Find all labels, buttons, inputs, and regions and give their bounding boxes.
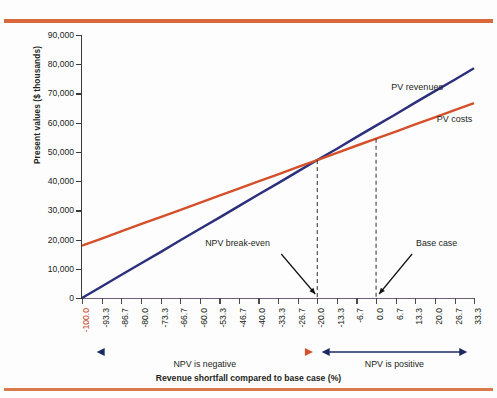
- x-tick-label: -93.3: [101, 308, 111, 328]
- x-tick: [435, 298, 436, 304]
- x-tick-label: -6.7: [355, 308, 365, 323]
- x-tick-label: 6.7: [395, 308, 405, 320]
- x-tick-label: 20.0: [434, 308, 444, 325]
- x-tick: [298, 298, 299, 304]
- x-tick-label: 26.7: [454, 308, 464, 325]
- arrow-npv-break-even: [281, 254, 315, 294]
- x-tick-label: -80.0: [140, 308, 150, 328]
- x-tick: [278, 298, 279, 304]
- x-tick: [337, 298, 338, 304]
- y-tick-label: 40,000: [28, 176, 74, 186]
- figure-page: Present values ($ thousands) 010,00020,0…: [0, 0, 497, 398]
- x-tick: [180, 298, 181, 304]
- x-tick-label: -40.0: [257, 308, 267, 328]
- x-tick-label: -20.0: [316, 308, 326, 328]
- y-tick-label: 80,000: [28, 59, 74, 69]
- y-tick-label: 60,000: [28, 118, 74, 128]
- x-tick-label: 13.3: [414, 308, 424, 325]
- region-label-npv-negative: NPV is negative: [97, 359, 313, 369]
- x-tick: [141, 298, 142, 304]
- x-tick: [102, 298, 103, 304]
- y-tick-label: 90,000: [28, 30, 74, 40]
- y-tick-label: 70,000: [28, 88, 74, 98]
- series-line-pv-costs: [82, 103, 474, 246]
- series-line-pv-revenues: [82, 68, 474, 298]
- x-tick: [317, 298, 318, 304]
- region-arrow-band: NPV is negative NPV is positive: [82, 347, 474, 361]
- x-tick: [219, 298, 220, 304]
- series-label-pv-revenues: PV revenues: [391, 82, 443, 92]
- y-tick-label: 10,000: [28, 264, 74, 274]
- top-rule: [4, 19, 493, 23]
- y-tick-label: 20,000: [28, 235, 74, 245]
- x-tick-label: -66.7: [179, 308, 189, 328]
- x-tick-label: -53.3: [218, 308, 228, 328]
- x-tick: [200, 298, 201, 304]
- x-tick-label: -100.0: [81, 308, 91, 332]
- x-tick: [474, 298, 475, 304]
- x-tick: [161, 298, 162, 304]
- x-tick: [356, 298, 357, 304]
- x-tick: [455, 298, 456, 304]
- x-tick-label: -86.7: [120, 308, 130, 328]
- x-tick-label: -13.3: [336, 308, 346, 328]
- series-lines: [82, 35, 474, 298]
- x-tick: [415, 298, 416, 304]
- arrow-npv-positive-range: [322, 348, 468, 356]
- x-tick-label: -46.7: [238, 308, 248, 328]
- x-tick: [239, 298, 240, 304]
- x-tick-label: -60.0: [199, 308, 209, 328]
- region-label-npv-positive: NPV is positive: [322, 359, 468, 369]
- arrow-npv-negative-range: [97, 348, 313, 356]
- x-tick-label: 0.0: [375, 308, 385, 320]
- y-tick-label: 30,000: [28, 205, 74, 215]
- x-tick-label: 33.3: [473, 308, 483, 325]
- plot-area: 010,00020,00030,00040,00050,00060,00070,…: [82, 35, 474, 298]
- x-axis-title: Revenue shortfall compared to base case …: [0, 373, 497, 383]
- annotation-base-case: Base case: [416, 238, 457, 248]
- x-tick: [258, 298, 259, 304]
- x-tick: [396, 298, 397, 304]
- y-tick-label: 50,000: [28, 147, 74, 157]
- bottom-rule: [4, 388, 493, 391]
- arrow-base-case: [379, 254, 412, 294]
- x-tick: [121, 298, 122, 304]
- annotation-npv-break-even: NPV break-even: [205, 238, 270, 248]
- x-tick: [376, 298, 377, 304]
- x-tick-label: -26.7: [297, 308, 307, 328]
- y-tick-label: 0: [28, 293, 74, 303]
- series-label-pv-costs: PV costs: [437, 114, 473, 124]
- x-tick-label: -33.3: [277, 308, 287, 328]
- x-tick-label: -73.3: [160, 308, 170, 328]
